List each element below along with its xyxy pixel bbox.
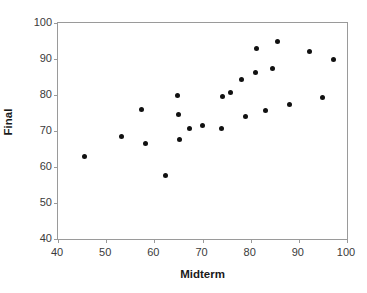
y-axis-tick <box>54 23 58 24</box>
y-axis-tick-label: 70 <box>6 124 52 136</box>
x-axis-tick <box>299 239 300 243</box>
data-point <box>228 90 233 95</box>
x-axis-tick-label: 90 <box>278 246 318 258</box>
x-axis-tick <box>251 239 252 243</box>
data-point <box>175 93 180 98</box>
y-axis-tick-label: 100 <box>6 16 52 28</box>
data-point <box>331 57 336 62</box>
x-axis-tick-label: 80 <box>230 246 270 258</box>
y-axis-tick-label: 90 <box>6 52 52 64</box>
data-point <box>220 94 225 99</box>
x-axis-tick <box>203 239 204 243</box>
data-point <box>270 66 275 71</box>
x-axis-tick <box>154 239 155 243</box>
data-point <box>177 137 182 142</box>
data-point <box>243 114 248 119</box>
data-point <box>239 77 244 82</box>
y-axis-tick <box>54 131 58 132</box>
data-point <box>176 112 181 117</box>
y-axis-tick <box>54 203 58 204</box>
x-axis-tick-label: 100 <box>326 246 366 258</box>
y-axis-tick <box>54 167 58 168</box>
x-axis-tick-label: 50 <box>85 246 125 258</box>
y-axis-tick-label: 40 <box>6 232 52 244</box>
data-points-layer <box>58 23 347 239</box>
y-axis-tick <box>54 59 58 60</box>
data-point <box>119 134 124 139</box>
data-point <box>287 102 292 107</box>
x-axis-tick-label: 40 <box>37 246 77 258</box>
data-point <box>307 49 312 54</box>
data-point <box>253 70 258 75</box>
x-axis-tick-label: 70 <box>182 246 222 258</box>
x-axis-title: Midterm <box>57 268 348 280</box>
data-point <box>143 141 148 146</box>
scatter-chart-figure: Final 405060708090100 405060708090100 Mi… <box>0 0 367 293</box>
data-point <box>82 154 87 159</box>
x-axis-tick-labels: 405060708090100 <box>57 246 348 262</box>
y-axis-tick-label: 50 <box>6 196 52 208</box>
x-axis-tick <box>106 239 107 243</box>
x-axis-tick-label: 60 <box>133 246 173 258</box>
data-point <box>219 126 224 131</box>
data-point <box>320 95 325 100</box>
x-axis-tick <box>58 239 59 243</box>
data-point <box>200 123 205 128</box>
data-point <box>187 126 192 131</box>
data-point <box>263 108 268 113</box>
y-axis-tick-label: 60 <box>6 160 52 172</box>
y-axis-tick-label: 80 <box>6 88 52 100</box>
y-axis-tick <box>54 95 58 96</box>
y-axis-tick-labels: 405060708090100 <box>0 22 52 240</box>
plot-area <box>57 22 348 240</box>
data-point <box>163 173 168 178</box>
data-point <box>139 107 144 112</box>
x-axis-tick <box>347 239 348 243</box>
data-point <box>275 39 280 44</box>
data-point <box>254 46 259 51</box>
